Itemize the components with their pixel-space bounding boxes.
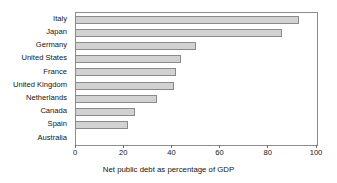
category-label: United States [0, 52, 71, 65]
category-label: Italy [0, 12, 71, 25]
category-label: Germany [0, 38, 71, 51]
bar-row [76, 39, 317, 52]
bar-row [76, 119, 317, 132]
bar-row [76, 105, 317, 118]
category-label: Netherlands [0, 91, 71, 104]
value-tick-label: 20 [119, 149, 127, 157]
bar-row [76, 92, 317, 105]
bar[interactable] [75, 16, 299, 24]
bar-chart-figure: ItalyJapanGermanyUnited StatesFranceUnit… [0, 0, 337, 183]
category-label: France [0, 65, 71, 78]
value-tick-label: 40 [167, 149, 175, 157]
value-tick-label: 100 [310, 149, 323, 157]
bar-row [76, 66, 317, 79]
value-axis: 020406080100 [75, 145, 316, 161]
bar[interactable] [75, 82, 174, 90]
bar-row [76, 79, 317, 92]
chart-title [20, 0, 260, 3]
category-label: United Kingdom [0, 78, 71, 91]
value-tick-label: 0 [73, 149, 77, 157]
value-tick-label: 80 [264, 149, 272, 157]
bar[interactable] [75, 121, 128, 129]
category-label: Australia [0, 131, 71, 144]
bar-row [76, 13, 317, 26]
value-tick-label: 60 [215, 149, 223, 157]
bar[interactable] [75, 55, 181, 63]
value-axis-title: Net public debt as percentage of GDP [0, 166, 337, 174]
category-axis: ItalyJapanGermanyUnited StatesFranceUnit… [0, 12, 71, 144]
bar[interactable] [75, 95, 157, 103]
category-label: Spain [0, 118, 71, 131]
bar[interactable] [75, 42, 196, 50]
plot-frame [75, 12, 318, 146]
bar[interactable] [75, 68, 176, 76]
bar[interactable] [75, 108, 135, 116]
bar[interactable] [75, 29, 282, 37]
bar-row [76, 132, 317, 145]
bar-row [76, 53, 317, 66]
category-label: Canada [0, 104, 71, 117]
plot-area [76, 13, 317, 145]
bar-row [76, 26, 317, 39]
category-label: Japan [0, 25, 71, 38]
